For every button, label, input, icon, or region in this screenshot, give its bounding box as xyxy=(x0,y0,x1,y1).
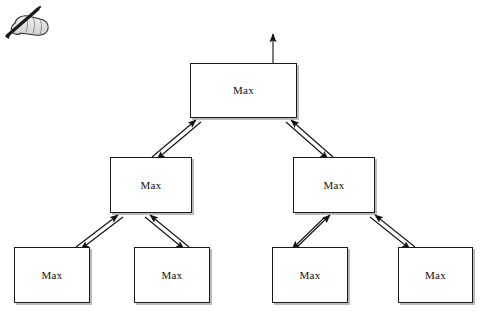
node-root[interactable]: Max xyxy=(190,63,297,118)
edge-leaf3-to-midright-up xyxy=(297,215,330,247)
edge-midleft-to-leaf1-down xyxy=(81,217,123,249)
edge-midright-to-leaf4-down xyxy=(370,217,410,249)
node-leaf-2-label: Max xyxy=(162,270,183,281)
edge-midright-to-root-up xyxy=(291,120,333,157)
node-mid-right-label: Max xyxy=(324,180,345,191)
edge-root-to-midleft-down xyxy=(157,122,201,159)
edge-midleft-to-root-up xyxy=(152,120,196,157)
edge-midright-to-leaf3-down xyxy=(292,217,325,249)
diagram-canvas: Max Max Max Max Max Max Max xyxy=(0,0,483,318)
edge-leaf2-to-midleft-up xyxy=(150,215,189,247)
node-leaf-4[interactable]: Max xyxy=(398,247,473,303)
edge-midleft-to-leaf2-down xyxy=(145,217,184,249)
node-root-label: Max xyxy=(233,85,254,96)
edge-leaf4-to-midright-up xyxy=(375,215,415,247)
node-mid-left-label: Max xyxy=(141,180,162,191)
node-leaf-3-label: Max xyxy=(300,270,321,281)
node-leaf-2[interactable]: Max xyxy=(134,247,210,303)
node-leaf-1-label: Max xyxy=(42,270,63,281)
node-mid-right[interactable]: Max xyxy=(293,157,375,213)
node-leaf-1[interactable]: Max xyxy=(14,247,90,303)
node-leaf-3[interactable]: Max xyxy=(272,247,348,303)
node-mid-left[interactable]: Max xyxy=(110,157,192,213)
edge-leaf1-to-midleft-up xyxy=(76,215,118,247)
edge-root-to-midright-down xyxy=(286,122,328,159)
node-leaf-4-label: Max xyxy=(425,270,446,281)
